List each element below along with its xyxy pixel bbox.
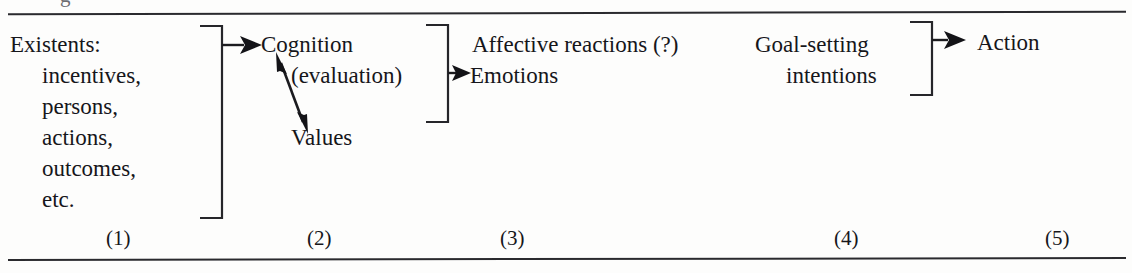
stage-number-5: (5) — [1045, 228, 1070, 249]
emotions-label: Emotions — [470, 64, 558, 87]
goal-setting-label: Goal-setting — [755, 33, 869, 56]
existents-heading: Existents: — [10, 33, 101, 56]
arrowhead-existents-to-cognition — [240, 36, 262, 54]
bracket-cognition — [426, 25, 448, 122]
stage-number-2: (2) — [307, 228, 332, 249]
stage-number-1: (1) — [106, 228, 131, 249]
cognition-label: Cognition — [261, 33, 353, 56]
values-label: Values — [291, 126, 352, 149]
bracket-goal-setting — [910, 22, 932, 95]
intentions-label: intentions — [786, 64, 877, 87]
arrowhead-goal-setting-to-action — [944, 31, 966, 49]
top-horizontal-rule — [8, 11, 1126, 16]
stage-number-4: (4) — [834, 228, 859, 249]
existents-item-actions: actions, — [42, 126, 113, 149]
affective-reactions-label: Affective reactions (?) — [472, 33, 678, 56]
bottom-horizontal-rule — [8, 257, 1126, 261]
process-flow-diagram: g Existents: incentives, persons, action… — [0, 0, 1132, 273]
existents-item-persons: persons, — [42, 95, 118, 118]
evaluation-label: (evaluation) — [291, 64, 402, 87]
existents-item-etc: etc. — [42, 188, 75, 211]
arrowhead-cognition-to-emotions — [452, 65, 471, 81]
bracket-existents — [200, 26, 222, 218]
existents-item-outcomes: outcomes, — [42, 157, 136, 180]
action-label: Action — [977, 31, 1040, 54]
stage-number-3: (3) — [500, 228, 525, 249]
existents-item-incentives: incentives, — [42, 64, 141, 87]
cut-off-caption-fragment: g — [60, 0, 71, 8]
